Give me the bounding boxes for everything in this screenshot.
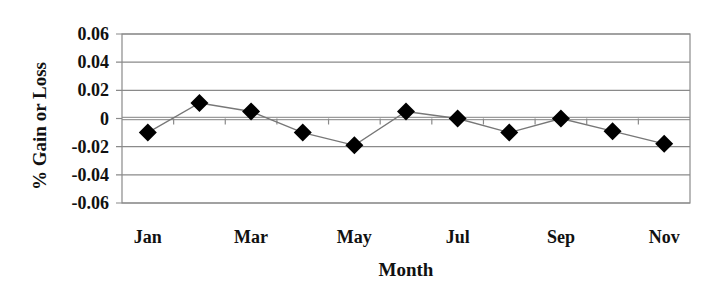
data-point-diamond-may <box>345 136 363 154</box>
y-tick-label: 0 <box>100 109 109 129</box>
y-axis-tick-labels: 0.060.040.020-0.02-0.04-0.06 <box>72 24 110 213</box>
y-tick-label: -0.04 <box>72 165 110 185</box>
y-axis-title-group: % Gain or Loss <box>29 62 50 190</box>
x-tick-label: Mar <box>234 227 268 247</box>
y-tick-label: -0.02 <box>72 137 110 157</box>
y-tick-label: 0.02 <box>78 80 110 100</box>
gridlines <box>116 34 690 203</box>
x-tick-label: Jan <box>134 227 162 247</box>
x-tick-label: Sep <box>547 227 575 247</box>
data-point-diamond-feb <box>190 94 208 112</box>
x-tick-label: Jul <box>446 227 470 247</box>
y-tick-label: -0.06 <box>72 193 110 213</box>
data-point-diamond-jan <box>139 124 157 142</box>
data-point-diamond-jul <box>449 110 467 128</box>
x-axis-title: Month <box>379 259 434 280</box>
x-tick-label: May <box>337 227 372 247</box>
data-point-diamond-sep <box>552 110 570 128</box>
y-tick-label: 0.06 <box>78 24 110 44</box>
x-tick-label: Nov <box>649 227 680 247</box>
data-point-diamond-aug <box>500 124 518 142</box>
data-markers <box>139 94 673 154</box>
line-chart: % Gain or Loss 0.060.040.020-0.02-0.04-0… <box>0 0 717 292</box>
y-tick-label: 0.04 <box>78 52 110 72</box>
data-point-diamond-nov <box>655 135 673 153</box>
data-point-diamond-oct <box>604 122 622 140</box>
x-axis-tick-labels: JanMarMayJulSepNov <box>134 227 680 247</box>
data-point-diamond-apr <box>294 124 312 142</box>
y-axis-title: % Gain or Loss <box>29 62 50 190</box>
